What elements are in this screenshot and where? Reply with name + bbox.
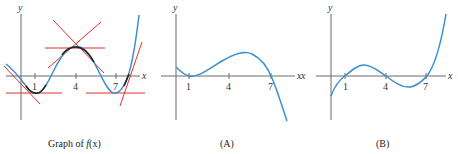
tick-label-1: 1 xyxy=(343,81,348,92)
y-axis-label: y xyxy=(17,2,23,13)
y-axis-label: y xyxy=(327,2,333,13)
x-axis-label: x xyxy=(447,70,453,81)
panel-f: y x 1 4 7 Graph of f(x) xyxy=(4,2,147,150)
caption-b: (B) xyxy=(376,138,389,150)
x-axis-label-left: x xyxy=(300,70,306,81)
curve-b xyxy=(331,14,446,96)
panel-a: y x 1 4 7 (A) xyxy=(161,2,302,150)
x-axis-label: x xyxy=(141,70,147,81)
figure: y x 1 4 7 Graph of f(x) y x 1 4 7 xyxy=(0,0,458,154)
y-axis-label: y xyxy=(172,2,178,13)
tick-label-1: 1 xyxy=(32,81,37,92)
tick-label-4: 4 xyxy=(383,81,388,92)
tick-label-7: 7 xyxy=(268,81,273,92)
caption-a: (A) xyxy=(220,138,234,150)
tick-label-7: 7 xyxy=(423,81,428,92)
tick-label-1: 1 xyxy=(186,81,191,92)
tangent-line-steep xyxy=(120,42,142,106)
panel-b: y x x 1 4 7 (B) xyxy=(300,2,453,150)
tick-label-4: 4 xyxy=(226,81,231,92)
tick-label-7: 7 xyxy=(113,81,118,92)
caption-f: Graph of f(x) xyxy=(48,138,101,150)
curve-segment-dark xyxy=(62,47,94,62)
tick-label-4: 4 xyxy=(73,81,78,92)
